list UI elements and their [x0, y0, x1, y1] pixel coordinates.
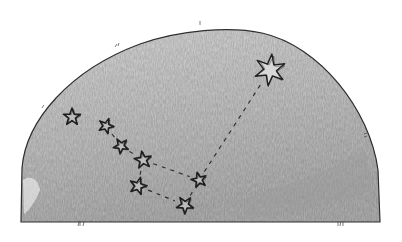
- constellation-illustration: [0, 0, 402, 242]
